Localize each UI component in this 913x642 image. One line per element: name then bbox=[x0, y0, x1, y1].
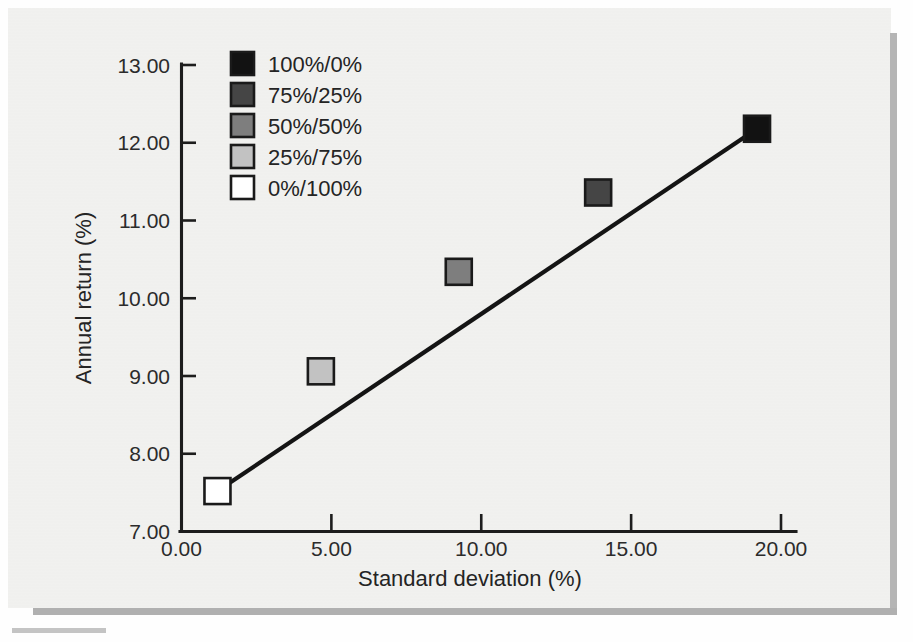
legend-swatch bbox=[231, 52, 254, 75]
data-marker bbox=[204, 478, 230, 504]
legend-swatch bbox=[231, 114, 254, 137]
y-axis-tick-labels: 7.008.009.0010.0011.0012.0013.00 bbox=[117, 54, 170, 544]
legend-swatch bbox=[231, 145, 254, 168]
x-axis-title: Standard deviation (%) bbox=[358, 566, 582, 591]
y-tick-label: 9.00 bbox=[129, 365, 170, 388]
legend-label: 50%/50% bbox=[268, 114, 362, 139]
data-marker bbox=[585, 180, 611, 206]
y-tick-label: 10.00 bbox=[117, 287, 170, 310]
figure-page: 7.008.009.0010.0011.0012.0013.00 0.005.0… bbox=[0, 0, 913, 642]
x-tick-label: 5.00 bbox=[311, 537, 352, 560]
y-tick-label: 12.00 bbox=[117, 131, 170, 154]
data-marker bbox=[744, 116, 770, 142]
x-tick-label: 20.00 bbox=[755, 537, 808, 560]
legend-swatch bbox=[231, 83, 254, 106]
y-tick-label: 13.00 bbox=[117, 54, 170, 77]
legend: 100%/0%75%/25%50%/50%25%/75%0%/100% bbox=[231, 52, 362, 201]
y-tick-label: 8.00 bbox=[129, 442, 170, 465]
x-axis-ticks bbox=[331, 514, 781, 530]
legend-label: 0%/100% bbox=[268, 176, 362, 201]
x-axis-tick-labels: 0.005.0010.0015.0020.00 bbox=[161, 537, 807, 560]
y-axis-title: Annual return (%) bbox=[71, 212, 96, 384]
data-marker bbox=[308, 358, 334, 384]
x-tick-label: 0.00 bbox=[161, 537, 202, 560]
x-tick-label: 15.00 bbox=[605, 537, 658, 560]
y-tick-label: 11.00 bbox=[119, 209, 170, 232]
legend-label: 75%/25% bbox=[268, 83, 362, 108]
legend-swatch bbox=[231, 176, 254, 199]
legend-label: 25%/75% bbox=[268, 145, 362, 170]
data-marker bbox=[446, 259, 472, 285]
y-axis-ticks bbox=[182, 65, 196, 532]
scatter-chart: 7.008.009.0010.0011.0012.0013.00 0.005.0… bbox=[0, 0, 913, 642]
x-tick-label: 10.00 bbox=[455, 537, 508, 560]
legend-label: 100%/0% bbox=[268, 52, 362, 77]
